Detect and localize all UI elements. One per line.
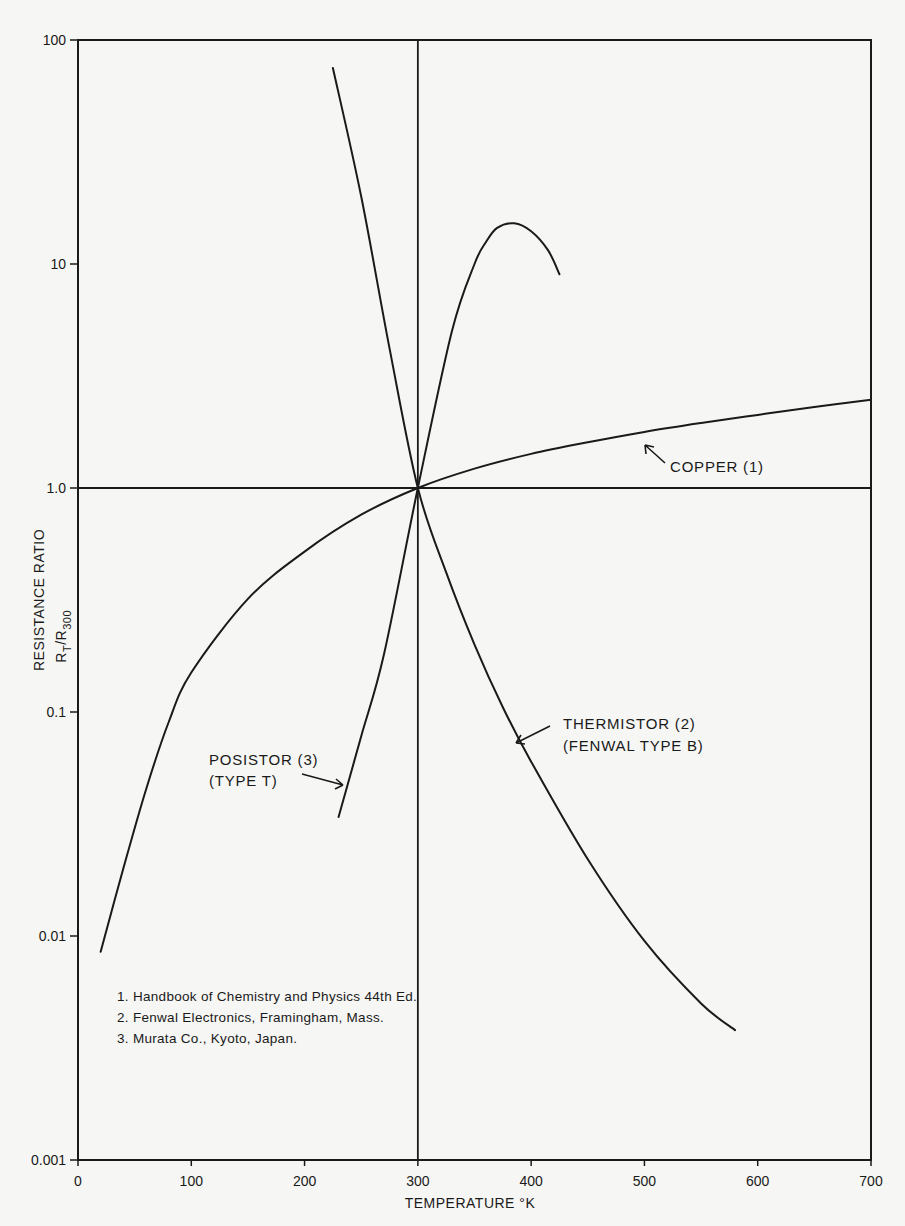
y-axis-title-r: RT/R300 xyxy=(53,610,73,663)
note-2: 2. Fenwal Electronics, Framingham, Mass. xyxy=(117,1010,384,1025)
x-axis-title: TEMPERATURE °K xyxy=(405,1195,536,1211)
y-tick-label: 100 xyxy=(43,32,67,48)
y-tick-label: 1.0 xyxy=(47,480,67,496)
y-tick-label: 0.1 xyxy=(47,704,67,720)
y-axis-title: RESISTANCE RATIO RT/R300 xyxy=(31,529,73,671)
copper-label: COPPER (1) xyxy=(670,458,764,475)
thermistor-arrow-icon xyxy=(516,726,550,744)
x-tick-label: 0 xyxy=(74,1173,82,1189)
thermistor-curve xyxy=(333,68,735,1030)
copper-arrow-icon xyxy=(645,445,665,463)
posistor-label-2: (TYPE T) xyxy=(209,772,278,789)
copper-annotation: COPPER (1) xyxy=(645,445,764,475)
note-3: 3. Murata Co., Kyoto, Japan. xyxy=(117,1031,297,1046)
resistance-ratio-chart: 01002003004005006007000.0010.010.11.0101… xyxy=(0,0,905,1226)
x-tick-label: 100 xyxy=(180,1173,204,1189)
x-tick-label: 700 xyxy=(859,1173,883,1189)
x-tick-label: 400 xyxy=(519,1173,543,1189)
x-tick-label: 300 xyxy=(406,1173,430,1189)
thermistor-label-2: (FENWAL TYPE B) xyxy=(563,737,704,754)
posistor-arrow-icon xyxy=(302,774,343,789)
posistor-annotation: POSISTOR (3) (TYPE T) xyxy=(209,751,343,789)
posistor-curve xyxy=(339,223,560,817)
y-tick-label: 10 xyxy=(50,256,66,272)
copper-curve xyxy=(101,400,871,952)
x-tick-label: 600 xyxy=(746,1173,770,1189)
y-axis-title-main: RESISTANCE RATIO xyxy=(31,529,47,671)
posistor-label-1: POSISTOR (3) xyxy=(209,751,318,768)
y-tick-label: 0.001 xyxy=(31,1152,66,1168)
y-tick-label: 0.01 xyxy=(39,928,66,944)
reference-notes: 1. Handbook of Chemistry and Physics 44t… xyxy=(117,989,417,1046)
x-tick-label: 200 xyxy=(293,1173,317,1189)
note-1: 1. Handbook of Chemistry and Physics 44t… xyxy=(117,989,417,1004)
thermistor-annotation: THERMISTOR (2) (FENWAL TYPE B) xyxy=(516,715,704,754)
thermistor-label-1: THERMISTOR (2) xyxy=(563,715,696,732)
x-tick-label: 500 xyxy=(633,1173,657,1189)
